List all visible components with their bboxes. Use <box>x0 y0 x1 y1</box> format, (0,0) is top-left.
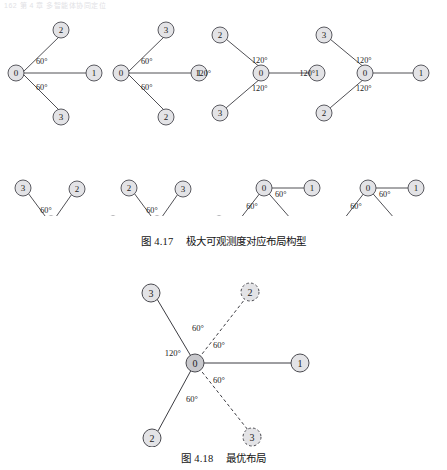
angle-label-right: 60° <box>170 216 181 217</box>
figure-4-18-graphics: 3 2 0 1 2 3 60° 60° 120° 60° 60° <box>0 262 447 447</box>
layout-h: 0 1 2 3 60° 60° <box>331 180 424 216</box>
node-3-label: 3 <box>164 25 169 35</box>
node-0-label: 0 <box>363 68 368 78</box>
node-1-label: 1 <box>414 183 419 193</box>
angle-label-lower: 60° <box>246 202 257 211</box>
layout-b: 3 0 1 2 60° 60° <box>113 22 207 125</box>
figure-4-17: 2 0 1 3 60° 60° 3 0 1 <box>0 16 447 248</box>
caption-number: 4.17 <box>154 236 173 247</box>
node-2-label: 2 <box>322 108 327 118</box>
angle-label-left: 120° <box>299 69 315 78</box>
node-2-lower-left-label: 2 <box>150 433 155 444</box>
caption-prefix: 图 <box>141 236 151 247</box>
figure-4-18: 3 2 0 1 2 3 60° 60° 120° 60° 60° 图 4.18最 <box>0 262 447 470</box>
figure-4-17-caption: 图 4.17极大可观测度对应布局构型 <box>0 233 447 248</box>
node-3-lower-right-alt-label: 3 <box>250 432 255 443</box>
angle-label-lower: 120° <box>356 84 372 93</box>
angle-label-top: 60° <box>192 323 205 333</box>
node-0-label: 0 <box>366 183 371 193</box>
layout-g: 0 1 3 2 60° 60° <box>227 180 320 216</box>
angle-label-right: 60° <box>275 190 286 199</box>
angle-label-upper-right: 60° <box>213 340 226 350</box>
angle-label-right: 60° <box>379 190 390 199</box>
node-3-label: 3 <box>59 112 64 122</box>
node-1-label: 1 <box>315 68 320 78</box>
node-0-label: 0 <box>259 68 264 78</box>
figure-4-18-caption: 图 4.18最优布局 <box>0 450 447 465</box>
angle-label-lower: 60° <box>141 83 152 92</box>
edge-0-3 <box>22 73 61 112</box>
node-3-label: 3 <box>218 108 223 118</box>
caption-prefix: 图 <box>181 453 191 464</box>
angle-label-bottom: 60° <box>186 394 199 404</box>
angle-label-upper: 60° <box>36 57 47 66</box>
angle-label-upper: 120° <box>356 56 372 65</box>
node-1-label: 1 <box>92 68 97 78</box>
layout-f: 2 3 0 1 60° 60° <box>121 180 227 216</box>
edge-0-3 <box>157 194 178 216</box>
node-0-label: 0 <box>119 68 124 78</box>
edge-0-2 <box>22 35 61 73</box>
angle-label-left: 120° <box>165 348 182 358</box>
node-3-label: 3 <box>21 183 26 193</box>
angle-label-upper: 60° <box>141 57 152 66</box>
node-1-right-label: 1 <box>298 358 303 369</box>
node-0-label: 0 <box>14 68 19 78</box>
node-2-upper-right-alt-label: 2 <box>248 287 253 298</box>
edge-0-3 <box>127 35 166 73</box>
node-3-label: 3 <box>322 30 327 40</box>
caption-text: 极大可观测度对应布局构型 <box>186 236 306 247</box>
angle-label-lower-right: 60° <box>213 375 226 385</box>
angle-label-upper: 60° <box>146 206 157 215</box>
node-1-label: 1 <box>419 68 424 78</box>
node-2-label: 2 <box>127 183 132 193</box>
caption-number: 4.18 <box>194 453 213 464</box>
node-0-center-label: 0 <box>193 358 198 369</box>
node-0-label: 0 <box>262 183 267 193</box>
angle-label-upper: 120° <box>252 56 268 65</box>
caption-text: 最优布局 <box>226 453 266 464</box>
document-page: 162 第 4 章 多智能体协同定位 2 0 1 3 60° <box>0 0 447 470</box>
angle-label-lower: 120° <box>252 84 268 93</box>
edge-0-3-dashed <box>195 363 248 430</box>
node-3-label: 3 <box>181 184 186 194</box>
spacer <box>0 16 51 78</box>
node-2-label: 2 <box>164 112 169 122</box>
angle-label-left: 120° <box>195 69 211 78</box>
layout-a: 2 0 1 3 60° 60° <box>8 22 102 125</box>
node-2-label: 2 <box>75 184 80 194</box>
node-2-label: 2 <box>218 30 223 40</box>
figure-4-17-graphics: 2 0 1 3 60° 60° 3 0 1 <box>0 16 447 216</box>
running-head: 162 第 4 章 多智能体协同定位 <box>4 0 304 9</box>
node-2-label: 2 <box>59 25 64 35</box>
angle-label-lower: 60° <box>350 202 361 211</box>
node-1-label: 1 <box>310 183 315 193</box>
node-3-upper-left-label: 3 <box>149 288 154 299</box>
edge-0-2 <box>51 194 72 216</box>
angle-label-right: 60° <box>64 216 75 217</box>
angle-label-upper: 60° <box>40 206 51 215</box>
angle-label-lower: 60° <box>36 83 47 92</box>
edge-0-2 <box>127 73 166 112</box>
